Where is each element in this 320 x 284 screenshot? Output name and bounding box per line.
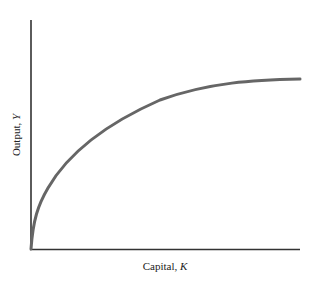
y-axis-label: Output, Y [10, 112, 22, 156]
production-curve [31, 79, 300, 249]
production-function-chart: Capital, K Output, Y [0, 0, 320, 284]
x-axis-label: Capital, K [143, 260, 188, 272]
